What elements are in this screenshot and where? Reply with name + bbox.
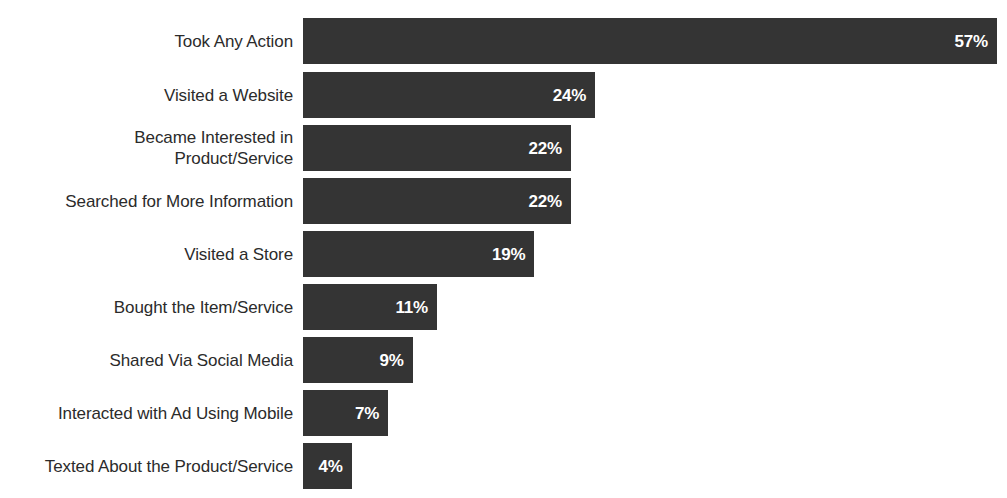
category-label: Searched for More Information [0,191,303,212]
bar: 9% [303,337,413,383]
bar-row: Searched for More Information 22% [0,178,1007,224]
bar-row: Texted About the Product/Service 4% [0,443,1007,489]
category-label: Texted About the Product/Service [0,456,303,477]
bar-row: Visited a Website 24% [0,72,1007,118]
bar: 22% [303,178,571,224]
category-label: Shared Via Social Media [0,350,303,371]
bar-value-label: 11% [395,299,428,316]
bar-value-label: 7% [355,405,379,422]
bar-track: 57% [303,18,1007,64]
bar-track: 24% [303,72,1007,118]
bar-row: Interacted with Ad Using Mobile 7% [0,390,1007,436]
bar: 22% [303,125,571,171]
bar: 19% [303,231,534,277]
bar: 24% [303,72,595,118]
bar: 4% [303,443,352,489]
bar-value-label: 19% [492,246,525,263]
bar: 7% [303,390,388,436]
bar-row: Took Any Action 57% [0,18,1007,64]
bar-track: 22% [303,178,1007,224]
bar-row: Visited a Store 19% [0,231,1007,277]
category-label: Bought the Item/Service [0,297,303,318]
bar-track: 4% [303,443,1007,489]
bar-row: Bought the Item/Service 11% [0,284,1007,330]
category-label: Visited a Website [0,85,303,106]
bar-value-label: 4% [319,458,343,475]
bar-track: 19% [303,231,1007,277]
category-label: Interacted with Ad Using Mobile [0,403,303,424]
bar-value-label: 22% [528,140,561,157]
bar-value-label: 9% [379,352,403,369]
bar-value-label: 22% [528,193,561,210]
bar-track: 22% [303,125,1007,171]
bar-value-label: 24% [553,87,586,104]
bar-track: 11% [303,284,1007,330]
bar-track: 7% [303,390,1007,436]
bar: 11% [303,284,437,330]
bar: 57% [303,18,997,64]
horizontal-bar-chart: Took Any Action 57% Visited a Website 24… [0,0,1007,498]
category-label: Became Interested in Product/Service [0,127,303,169]
bar-row: Became Interested in Product/Service 22% [0,125,1007,171]
category-label: Visited a Store [0,244,303,265]
bar-value-label: 57% [955,33,988,50]
bar-row: Shared Via Social Media 9% [0,337,1007,383]
bar-track: 9% [303,337,1007,383]
category-label: Took Any Action [0,31,303,52]
